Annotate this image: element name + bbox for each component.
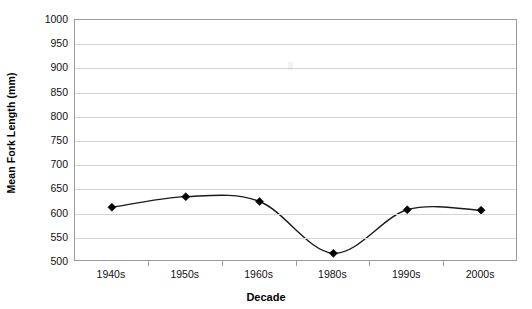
line-chart: Mean Fork Length (mm) 100095090085080075…	[0, 0, 532, 309]
gridline	[75, 141, 516, 142]
y-axis-tick-label: 900	[50, 61, 68, 73]
gridline	[75, 214, 516, 215]
y-axis-title: Mean Fork Length (mm)	[0, 0, 22, 265]
y-axis-title-text: Mean Fork Length (mm)	[5, 72, 17, 193]
x-axis-tick-label: 2000s	[466, 268, 495, 281]
x-axis-tick-label: 1940s	[97, 268, 126, 281]
y-axis-tick-label: 950	[50, 37, 68, 49]
y-axis-tick-label: 600	[50, 207, 68, 219]
x-axis-title: Decade	[0, 291, 532, 303]
x-axis-tick	[222, 261, 223, 266]
x-axis-tick	[369, 261, 370, 266]
y-axis-tick-label: 700	[50, 158, 68, 170]
y-axis-tick-labels: 1000950900850800750700650600550500	[22, 12, 74, 268]
gridline	[75, 44, 516, 45]
y-axis-tick-label: 550	[50, 231, 68, 243]
gridline	[75, 117, 516, 118]
x-axis-tick-label: 1990s	[392, 268, 421, 281]
series-line	[112, 195, 481, 253]
x-axis-tick-label: 1950s	[170, 268, 199, 281]
gridline	[75, 165, 516, 166]
gridline	[75, 189, 516, 190]
gridline	[75, 238, 516, 239]
data-point-marker	[108, 203, 116, 211]
x-axis-tick-label: 1960s	[244, 268, 273, 281]
y-axis-tick-label: 650	[50, 182, 68, 194]
x-axis-tick	[148, 261, 149, 266]
plot-area	[74, 19, 517, 261]
data-point-marker	[329, 249, 337, 257]
gridline	[75, 93, 516, 94]
y-axis-tick-label: 800	[50, 110, 68, 122]
data-point-marker	[182, 193, 190, 201]
gridline	[75, 68, 516, 69]
x-axis-tick-label: 1980s	[318, 268, 347, 281]
y-axis-tick-label: 750	[50, 134, 68, 146]
y-axis-tick-label: 500	[50, 255, 68, 267]
x-axis-tick	[296, 261, 297, 266]
y-axis-tick-label: 1000	[45, 13, 68, 25]
y-axis-tick-label: 850	[50, 86, 68, 98]
data-point-marker	[256, 198, 264, 206]
x-axis-tick	[443, 261, 444, 266]
